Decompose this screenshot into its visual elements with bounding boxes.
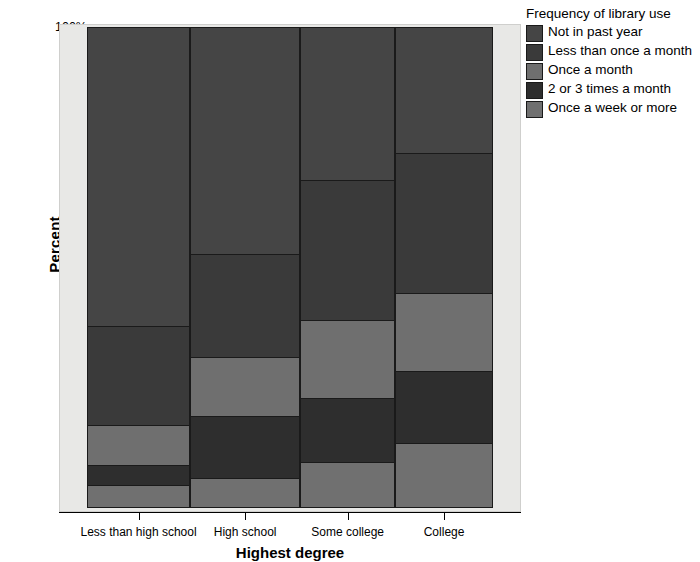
bar-segment[interactable] [395, 371, 493, 443]
legend-swatch-icon [526, 63, 543, 80]
bar-segment[interactable] [395, 293, 493, 371]
bar-segment[interactable] [190, 416, 300, 478]
bar-segment[interactable] [395, 27, 493, 153]
legend-title: Frequency of library use [526, 6, 700, 21]
bar-college[interactable] [395, 27, 493, 508]
bar-segment[interactable] [87, 465, 190, 485]
legend-item[interactable]: Not in past year [526, 24, 700, 42]
bar-segment[interactable] [300, 180, 395, 320]
legend-swatch-icon [526, 101, 543, 118]
bar-segment[interactable] [190, 27, 300, 254]
bar-segment[interactable] [87, 326, 190, 425]
legend-item[interactable]: Once a month [526, 62, 700, 80]
bar-segment[interactable] [300, 398, 395, 462]
bar-segment[interactable] [395, 153, 493, 293]
legend-swatch-icon [526, 44, 543, 61]
x-tick-label: College [384, 525, 504, 539]
bar-segment[interactable] [87, 485, 190, 508]
bar-segment[interactable] [190, 357, 300, 416]
legend-swatch-icon [526, 82, 543, 99]
legend-item[interactable]: 2 or 3 times a month [526, 81, 700, 99]
bar-segment[interactable] [300, 320, 395, 398]
bar-segment[interactable] [190, 254, 300, 356]
x-tick-mark [139, 512, 140, 520]
bar-some-college[interactable] [300, 27, 395, 508]
x-tick-mark [444, 512, 445, 520]
x-tick-mark [245, 512, 246, 520]
bar-less-than-high-school[interactable] [87, 27, 190, 508]
legend: Frequency of library use Not in past yea… [526, 6, 700, 119]
legend-label: Less than once a month [548, 43, 692, 58]
x-tick-mark [348, 512, 349, 520]
legend-item[interactable]: Once a week or more [526, 100, 700, 118]
bar-segment[interactable] [300, 462, 395, 508]
legend-label: 2 or 3 times a month [548, 81, 671, 96]
legend-swatch-icon [526, 25, 543, 42]
x-tick-label: Less than high school [79, 525, 199, 539]
bar-segment[interactable] [300, 27, 395, 180]
legend-label: Once a month [548, 62, 633, 77]
bar-segment[interactable] [395, 443, 493, 508]
legend-items: Not in past yearLess than once a monthOn… [526, 24, 700, 118]
stacked-bars [87, 27, 493, 508]
x-axis-line [59, 512, 521, 513]
bar-high-school[interactable] [190, 27, 300, 508]
bar-segment[interactable] [87, 425, 190, 465]
legend-label: Not in past year [548, 24, 643, 39]
bar-segment[interactable] [87, 27, 190, 326]
legend-item[interactable]: Less than once a month [526, 43, 700, 61]
bar-segment[interactable] [190, 478, 300, 508]
legend-label: Once a week or more [548, 100, 677, 115]
x-axis-title: Highest degree [59, 544, 521, 561]
chart-root: Percent 100%80%60%40%20%0% Less than hig… [0, 0, 700, 562]
